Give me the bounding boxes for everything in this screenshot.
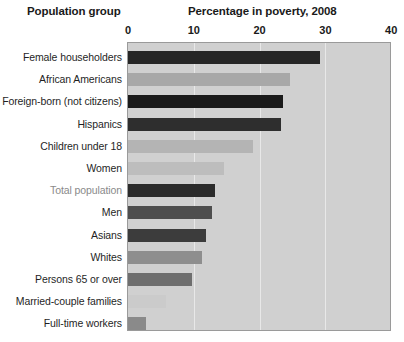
bar (128, 317, 146, 330)
category-label: Asians (91, 229, 122, 241)
bar-row: Hispanics (0, 113, 404, 136)
bar-rows: Female householdersAfrican AmericansFore… (0, 0, 404, 342)
bar-row: Married-couple families (0, 290, 404, 313)
bar (128, 162, 224, 175)
bar-row: Persons 65 or over (0, 268, 404, 291)
category-label: Total population (50, 184, 122, 196)
category-label: Female householders (23, 51, 122, 63)
bar-row: Men (0, 201, 404, 224)
category-label: Whites (91, 251, 123, 263)
category-label: Children under 18 (40, 140, 122, 152)
bar (128, 206, 212, 219)
category-label: Married-couple families (16, 295, 122, 307)
bar-row: Female householders (0, 46, 404, 69)
bar-row: Total population (0, 179, 404, 202)
bar (128, 251, 202, 264)
bar (128, 273, 192, 286)
category-label: Full-time workers (44, 317, 122, 329)
bar (128, 140, 253, 153)
bar (128, 118, 281, 131)
bar-row: Full-time workers (0, 312, 404, 335)
bar-row: Children under 18 (0, 135, 404, 158)
category-label: Persons 65 or over (35, 273, 122, 285)
bar-row: Whites (0, 246, 404, 269)
category-label: Men (102, 206, 122, 218)
bar-row: African Americans (0, 68, 404, 91)
bar-row: Women (0, 157, 404, 180)
bar (128, 95, 283, 108)
bar (128, 73, 290, 86)
poverty-bar-chart: Population group Percentage in poverty, … (0, 0, 404, 342)
bar (128, 51, 320, 64)
bar (128, 184, 215, 197)
bar (128, 295, 166, 308)
bar (128, 229, 206, 242)
bar-row: Asians (0, 224, 404, 247)
category-label: African Americans (39, 73, 122, 85)
category-label: Foreign-born (not citizens) (2, 95, 122, 107)
bar-row: Foreign-born (not citizens) (0, 90, 404, 113)
category-label: Hispanics (77, 118, 122, 130)
category-label: Women (87, 162, 123, 174)
